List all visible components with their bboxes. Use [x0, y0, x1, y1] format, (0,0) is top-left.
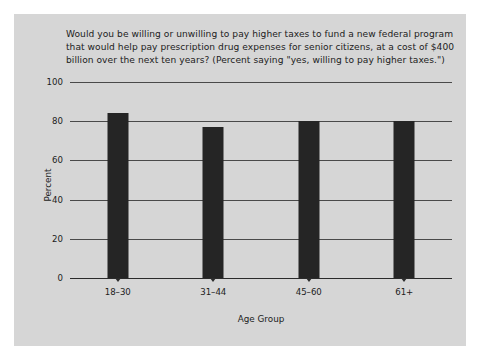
y-tick-label: 20	[52, 234, 63, 244]
x-tick-label: 61+	[395, 287, 413, 297]
bar	[298, 121, 319, 278]
x-axis-line	[70, 278, 452, 279]
bar	[107, 113, 128, 278]
y-tick-label: 0	[58, 273, 63, 283]
plot-area: 02040608010018–3031–4445–6061+	[70, 82, 452, 278]
x-tick-marker	[115, 278, 121, 282]
bar	[203, 127, 224, 278]
x-tick-marker	[210, 278, 216, 282]
x-tick-label: 31–44	[200, 287, 226, 297]
bar	[394, 121, 415, 278]
chart-panel: Would you be willing or unwilling to pay…	[14, 14, 466, 346]
x-tick-label: 18–30	[105, 287, 131, 297]
y-tick-label: 60	[52, 155, 63, 165]
x-axis-title: Age Group	[70, 314, 452, 324]
y-tick-label: 40	[52, 195, 63, 205]
y-axis-title: Percent	[43, 168, 53, 201]
x-tick-label: 45–60	[296, 287, 322, 297]
y-tick-label: 80	[52, 116, 63, 126]
x-tick-marker	[306, 278, 312, 282]
gridline	[70, 82, 452, 83]
x-tick-marker	[401, 278, 407, 282]
chart-question-title: Would you be willing or unwilling to pay…	[66, 28, 456, 68]
y-tick-label: 100	[47, 77, 63, 87]
